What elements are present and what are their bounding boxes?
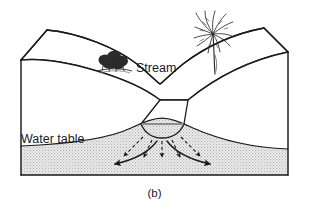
block-body bbox=[18, 28, 292, 178]
stream-label: Stream bbox=[136, 61, 176, 75]
figure-root: Stream Water table (b) bbox=[0, 0, 309, 202]
water-table-label: Water table bbox=[21, 132, 85, 146]
block-diagram: Stream Water table (b) bbox=[0, 0, 309, 202]
figure-caption: (b) bbox=[147, 187, 161, 199]
